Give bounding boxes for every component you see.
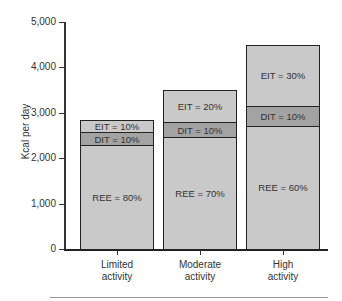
bar-high-activity: EIT = 30%DIT = 10%REE = 60% [246, 45, 320, 249]
segment-ree: REE = 60% [247, 127, 319, 249]
bar-limited-activity: EIT = 10%DIT = 10%REE = 80% [80, 120, 154, 249]
x-tick-label: Highactivity [238, 259, 328, 283]
x-tick-label: Moderateactivity [155, 259, 245, 283]
segment-eit: EIT = 30% [247, 46, 319, 107]
segment-eit: EIT = 10% [81, 121, 153, 134]
y-tick-label: 4,000 [6, 61, 56, 72]
y-tick-label: 0 [6, 243, 56, 254]
y-axis-line [64, 22, 66, 249]
segment-dit: DIT = 10% [164, 123, 236, 139]
y-tick-mark [59, 249, 64, 250]
y-tick-label: 5,000 [6, 16, 56, 27]
segment-ree: REE = 80% [81, 146, 153, 249]
y-tick-mark [59, 22, 64, 23]
x-tick-mark [283, 250, 284, 255]
y-tick-label: 3,000 [6, 107, 56, 118]
x-axis-line [64, 249, 328, 251]
segment-dit: DIT = 10% [247, 107, 319, 127]
x-tick-mark [117, 250, 118, 255]
y-tick-mark [59, 158, 64, 159]
bar-moderate-activity: EIT = 20%DIT = 10%REE = 70% [163, 90, 237, 249]
y-tick-label: 1,000 [6, 198, 56, 209]
x-tick-mark [200, 250, 201, 255]
segment-eit: EIT = 20% [164, 91, 236, 123]
segment-dit: DIT = 10% [81, 133, 153, 146]
y-tick-mark [59, 67, 64, 68]
y-tick-mark [59, 113, 64, 114]
x-tick-label: Limitedactivity [72, 259, 162, 283]
bottom-rule [50, 297, 328, 298]
y-tick-label: 2,000 [6, 152, 56, 163]
segment-ree: REE = 70% [164, 138, 236, 249]
y-tick-mark [59, 204, 64, 205]
